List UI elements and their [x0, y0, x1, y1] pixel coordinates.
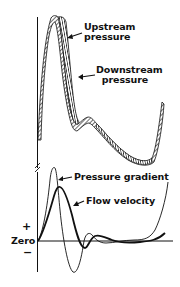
flow-velocity-label: Flow velocity [86, 196, 155, 206]
flow-velocity-leader [77, 201, 84, 204]
upstream-label-line2: pressure [84, 32, 128, 42]
pressure-gradient-leader [62, 177, 72, 179]
pressure-gradient-arrowhead [58, 176, 63, 181]
pressure-gradient-curve [38, 168, 168, 273]
downstream-pressure-label: Downstream pressure [96, 65, 154, 85]
downstream-label-line2: pressure [96, 75, 154, 85]
minus-sign-label: − [23, 248, 32, 258]
zero-label: Zero [11, 236, 35, 246]
downstream-leader [81, 75, 95, 77]
plus-sign-label: + [22, 222, 31, 232]
pressure-gradient-label: Pressure gradient [74, 172, 169, 182]
downstream-arrowhead [78, 74, 83, 80]
downstream-pressure-tail [96, 124, 152, 164]
upstream-pressure-label: Upstream pressure [84, 22, 128, 42]
